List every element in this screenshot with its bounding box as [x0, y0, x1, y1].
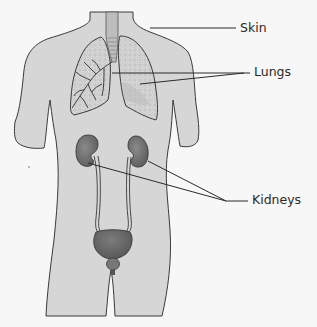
label-kidneys: Kidneys — [252, 194, 301, 207]
prostate — [107, 258, 120, 270]
human-body-diagram — [0, 0, 317, 327]
urethra — [111, 269, 115, 275]
label-lungs: Lungs — [254, 66, 291, 79]
label-skin: Skin — [240, 22, 267, 35]
artifact-dot — [28, 166, 30, 168]
